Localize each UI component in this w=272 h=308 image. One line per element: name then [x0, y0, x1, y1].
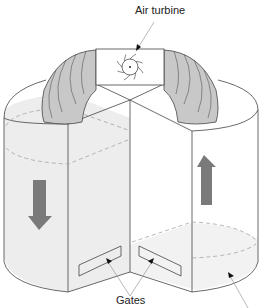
gates-label: Gates	[116, 294, 145, 306]
right-water-fill	[130, 223, 258, 290]
diagram-canvas	[0, 0, 272, 308]
up-arrow-icon	[197, 155, 216, 205]
air-turbine-label: Air turbine	[135, 4, 185, 16]
